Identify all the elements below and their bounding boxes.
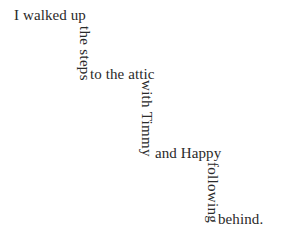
poem-segment-horizontal: and Happy	[155, 146, 221, 161]
poem-segment-horizontal: behind.	[218, 212, 263, 227]
poem-segment-vertical: with Timmy	[139, 80, 154, 157]
poem-segment-horizontal: I walked up	[14, 8, 86, 23]
poem-canvas: I walked upthe stepsto the atticwith Tim…	[0, 0, 288, 235]
